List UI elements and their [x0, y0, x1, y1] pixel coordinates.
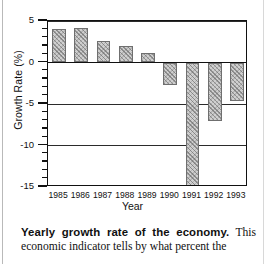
- y-tick-label: -10: [4, 139, 34, 150]
- y-tick-label: 0: [4, 56, 34, 67]
- bar-1986: [74, 28, 88, 62]
- bar-1985: [52, 29, 66, 62]
- y-tick-major: [38, 61, 47, 62]
- y-tick-label: -15: [4, 180, 34, 191]
- bar-series: [48, 21, 246, 185]
- plot-area: [47, 20, 247, 186]
- y-axis-title: Growth Rate (%): [12, 35, 24, 145]
- x-tick-label: 1993: [221, 190, 251, 200]
- caption-lead: Yearly growth rate of the economy.: [21, 226, 229, 238]
- bar-1988: [119, 46, 133, 63]
- bar-1993: [230, 63, 244, 101]
- bar-1989: [141, 53, 155, 63]
- y-tick-major: [38, 144, 47, 145]
- bar-chart-figure: Growth Rate (%) 50-5-10-15 1985198619871…: [0, 0, 265, 214]
- y-tick-major: [38, 185, 47, 186]
- bar-1991: [186, 63, 200, 187]
- y-tick-label: -5: [4, 97, 34, 108]
- y-tick-label: 5: [4, 14, 34, 25]
- x-axis-title: Year: [0, 200, 265, 212]
- bar-1987: [97, 41, 111, 63]
- figure-caption: Yearly growth rate of the economy. This …: [21, 225, 256, 254]
- bar-1992: [208, 63, 222, 121]
- figure-page: Growth Rate (%) 50-5-10-15 1985198619871…: [0, 0, 265, 264]
- bar-1990: [163, 63, 177, 85]
- y-tick-major: [38, 102, 47, 103]
- y-tick-major: [38, 19, 47, 20]
